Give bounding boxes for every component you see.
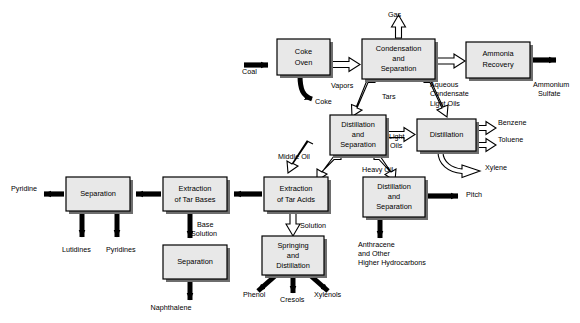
box-label-line: Extraction xyxy=(179,184,212,193)
label-heavy-oil: Heavy Oil xyxy=(362,165,394,174)
label-lutidines: Lutidines xyxy=(62,245,91,254)
box-label-line: Separation xyxy=(340,140,376,149)
label-coke: Coke xyxy=(315,97,332,106)
box-ammonia-recovery[interactable]: Ammonia Recovery xyxy=(466,42,533,81)
arrow-benzene xyxy=(477,122,496,135)
label-xylenols: Xylenols xyxy=(314,290,342,299)
label-pitch: Pitch xyxy=(466,190,482,199)
box-label-line: Distillation xyxy=(341,120,375,129)
box-label-line: Springing xyxy=(277,241,308,250)
box-label-line: and xyxy=(388,192,400,201)
box-distillation[interactable]: Distillation xyxy=(417,119,479,154)
box-label-line: and xyxy=(352,130,364,139)
label-sulfate: Sulfate xyxy=(538,89,560,98)
box-distillation-and-separation-top[interactable]: Distillation and Separation xyxy=(330,115,389,158)
box-label-line: Separation xyxy=(80,189,116,198)
box-label-line: Separation xyxy=(376,202,412,211)
label-ammonium: Ammonium xyxy=(533,80,569,89)
label-solution: Solution xyxy=(300,221,326,230)
box-extraction-of-tar-acids[interactable]: Extraction of Tar Acids xyxy=(264,177,331,214)
arrow-tars xyxy=(352,79,376,117)
box-label-line: Coke xyxy=(295,47,312,56)
label-toluene: Toluene xyxy=(498,135,523,144)
arrow-xylene xyxy=(438,152,480,178)
label-anthracene-1: Anthracene xyxy=(358,240,395,249)
label-xylene: Xylene xyxy=(485,163,507,172)
box-extraction-of-tar-bases[interactable]: Extraction of Tar Bases xyxy=(163,177,230,214)
box-label-line: Distillation xyxy=(276,261,310,270)
box-label-line: of Tar Acids xyxy=(277,195,315,204)
box-label-line: and xyxy=(287,251,299,260)
arrow-coke xyxy=(300,75,312,99)
box-label-line: Distillation xyxy=(430,130,464,139)
box-label-line: Condensation xyxy=(376,44,422,53)
label-phenol: Phenol xyxy=(243,290,266,299)
label-middle-oil: Middle Oil xyxy=(278,152,310,161)
diagram-canvas: Coke Oven Condensation and Separation Am… xyxy=(0,0,580,323)
box-label-line: Distillation xyxy=(377,182,411,191)
label-naphthalene: Naphthalene xyxy=(151,303,192,312)
process-flow-diagram: Coke Oven Condensation and Separation Am… xyxy=(0,0,580,323)
label-condensate: Condensate xyxy=(430,89,469,98)
box-separation-naphthalene[interactable]: Separation xyxy=(163,245,230,282)
label-gas: Gas xyxy=(388,10,402,19)
label-vapors: Vapors xyxy=(331,81,354,90)
box-coke-oven[interactable]: Coke Oven xyxy=(277,39,333,78)
box-condensation-and-separation[interactable]: Condensation and Separation xyxy=(362,39,438,82)
label-cresols: Cresols xyxy=(280,295,305,304)
arrow-vapors xyxy=(331,58,360,72)
box-springing-and-distillation[interactable]: Springing and Distillation xyxy=(262,236,327,278)
arrow-xylenols xyxy=(311,276,328,291)
label-pyridine: Pyridine xyxy=(11,184,37,193)
arrow-toluene xyxy=(477,139,496,152)
label-light-oils-upper: Light Oils xyxy=(430,99,460,108)
label-benzene: Benzene xyxy=(498,118,526,127)
label-aqueous: Aqueous xyxy=(430,80,459,89)
box-label-line: Recovery xyxy=(482,60,514,69)
box-label-line: and xyxy=(392,54,404,63)
label-pyridines: Pyridines xyxy=(106,245,136,254)
box-label-line: Oven xyxy=(295,58,313,67)
box-label-line: of Tar Bases xyxy=(175,195,216,204)
box-separation-tar-bases[interactable]: Separation xyxy=(66,177,133,214)
box-distillation-and-separation-bottom[interactable]: Distillation and Separation xyxy=(363,177,428,220)
label-light-mid-2: Oils xyxy=(390,141,403,150)
arrow-phenol xyxy=(258,276,275,291)
arrow-solution xyxy=(286,212,300,236)
label-base-2: Solution xyxy=(191,229,217,238)
arrow-aqueous-condensate xyxy=(436,54,465,68)
label-base-1: Base xyxy=(197,220,213,229)
label-anthracene-3: Higher Hydrocarbons xyxy=(358,258,426,267)
label-anthracene-2: and Other xyxy=(358,249,391,258)
label-tars: Tars xyxy=(382,92,396,101)
box-label-line: Separation xyxy=(381,64,417,73)
box-label-line: Extraction xyxy=(280,184,313,193)
box-label-line: Ammonia xyxy=(482,49,514,58)
label-coal: Coal xyxy=(242,67,257,76)
box-label-line: Separation xyxy=(177,257,213,266)
label-light-mid-1: Light xyxy=(389,132,405,141)
